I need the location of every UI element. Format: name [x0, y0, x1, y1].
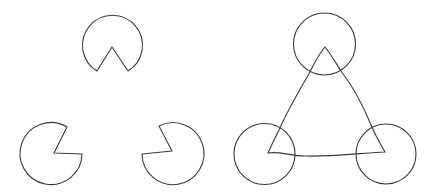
circle-top — [294, 13, 356, 75]
panel-explained — [234, 13, 416, 185]
pacman-bottom-left — [20, 123, 82, 185]
pacman-top — [83, 15, 143, 71]
illusory-triangle — [268, 47, 385, 156]
panel-inducers — [20, 15, 204, 184]
circle-bottom-right — [356, 124, 416, 184]
pacman-bottom-right — [142, 123, 204, 185]
kanizsa-figure — [0, 0, 433, 194]
